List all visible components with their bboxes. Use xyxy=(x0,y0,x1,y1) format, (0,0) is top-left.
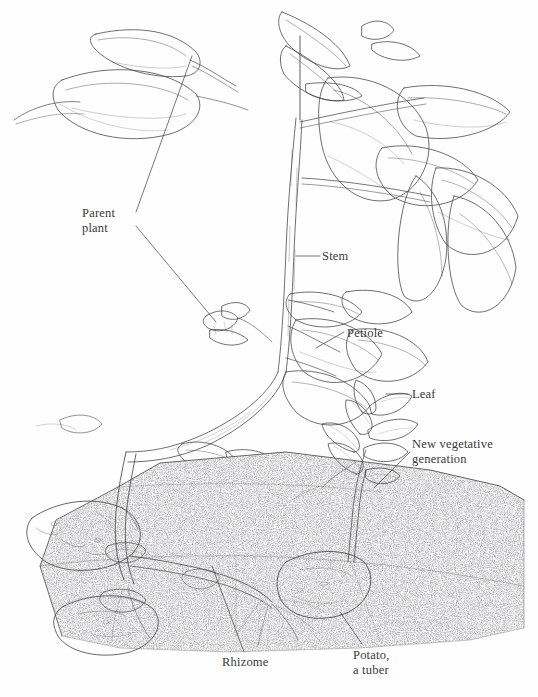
label-stem: Stem xyxy=(322,249,349,264)
potato-plant-drawing xyxy=(0,0,538,697)
label-parent-plant: Parent plant xyxy=(82,206,115,236)
axillary-flower-cluster xyxy=(203,303,272,346)
botanical-illustration-figure: Parent plant Stem Petiole Leaf New veget… xyxy=(0,0,538,697)
label-petiole: Petiole xyxy=(347,326,383,341)
upper-right-leaf-cluster xyxy=(279,12,518,312)
leader-parent-lower xyxy=(136,226,216,322)
leader-petiole xyxy=(316,332,344,348)
label-leaf: Leaf xyxy=(412,387,436,402)
leader-parent-upper xyxy=(136,56,192,212)
label-potato-tuber: Potato, a tuber xyxy=(353,648,389,678)
soil-cross-section xyxy=(30,445,530,660)
label-new-vegetative-generation: New vegetative generation xyxy=(412,437,493,467)
descending-stem xyxy=(126,372,286,462)
label-rhizome: Rhizome xyxy=(222,655,269,670)
